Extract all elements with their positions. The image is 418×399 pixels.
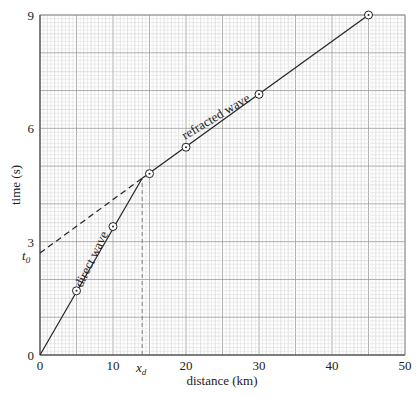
x-tick-label: 40 [326,358,339,373]
travel-time-chart: 01020304050 0369 distance (km) time (s) … [0,0,418,399]
data-point-dot [112,226,114,228]
data-point-dot [76,290,78,292]
x-tick-labels: 01020304050 [37,358,412,373]
data-point-dot [149,173,151,175]
x-tick-label: 20 [180,358,193,373]
x-tick-label: 50 [399,358,412,373]
x-axis-label: distance (km) [186,373,257,388]
y-tick-label: 6 [28,121,35,136]
x-tick-label: 10 [107,358,120,373]
y-tick-label: 9 [28,8,35,23]
y-tick-label: 3 [28,235,35,250]
grid [40,15,405,355]
data-point-dot [185,146,187,148]
data-point-dot [258,93,260,95]
x-tick-label: 30 [253,358,266,373]
t0-label: t0 [22,248,31,265]
x-tick-label: 0 [37,358,44,373]
data-point-dot [368,14,370,16]
xd-label: xd [135,360,147,377]
y-tick-label: 0 [28,348,35,363]
y-axis-label: time (s) [8,165,23,205]
y-tick-labels: 0369 [28,8,35,363]
